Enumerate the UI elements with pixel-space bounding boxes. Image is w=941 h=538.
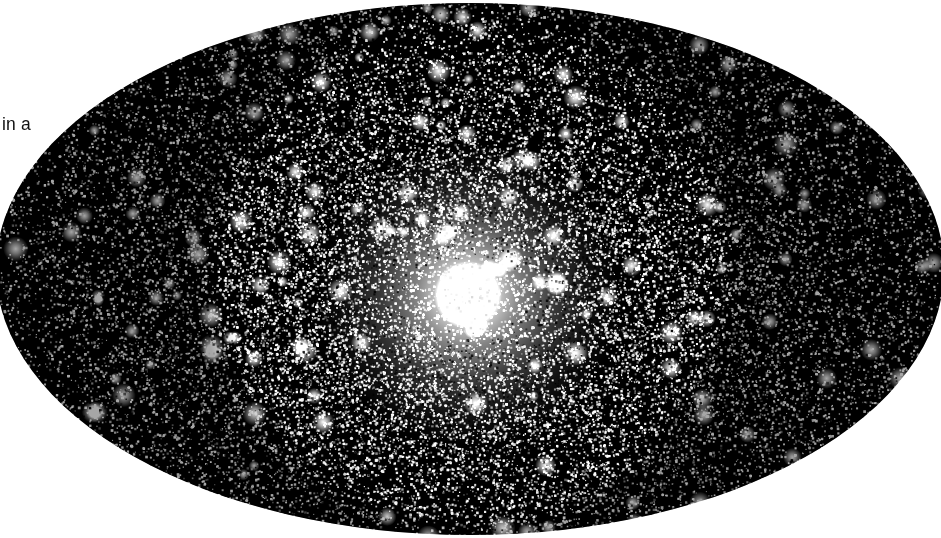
globular-cluster-figure — [0, 3, 941, 538]
body-text-fragment: in a — [2, 113, 31, 135]
globular-cluster-image — [0, 3, 941, 538]
document-page: in a — [0, 0, 941, 538]
